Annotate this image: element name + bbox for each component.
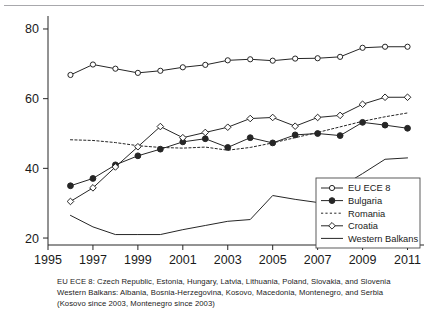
data-point-marker [158, 68, 163, 73]
x-tick-label: 2001 [169, 253, 197, 267]
data-point-marker [293, 56, 298, 61]
data-point-marker [224, 124, 231, 131]
series-eu-ece-8 [68, 44, 410, 77]
data-point-marker [135, 70, 140, 75]
series-romania [70, 113, 407, 150]
x-tick-label: 1999 [124, 253, 152, 267]
x-tick-label: 2009 [349, 253, 377, 267]
data-point-marker [68, 183, 74, 189]
data-point-marker [337, 133, 343, 139]
y-axis-tick-labels: 20406080 [25, 22, 39, 245]
data-point-marker [225, 58, 230, 63]
data-point-marker [404, 94, 411, 101]
data-point-marker [202, 129, 209, 136]
data-point-marker [329, 198, 335, 204]
data-point-marker [382, 94, 389, 101]
line-chart-plot: 20406080 1995199719992001200320052007200… [0, 0, 427, 317]
legend-item-label: Croatia [348, 221, 379, 231]
data-point-marker [292, 123, 299, 130]
data-point-marker [247, 135, 253, 141]
y-tick-label: 80 [25, 22, 39, 36]
data-point-marker [329, 185, 334, 190]
data-point-marker [405, 44, 410, 49]
data-point-marker [315, 56, 320, 61]
data-point-marker [359, 101, 366, 108]
data-point-marker [269, 114, 276, 121]
data-point-marker [338, 54, 343, 59]
chart-legend: EU ECE 8BulgariaRomaniaCroatiaWestern Ba… [316, 178, 420, 248]
x-tick-label: 1997 [79, 253, 107, 267]
data-point-marker [337, 112, 344, 119]
data-point-marker [180, 65, 185, 70]
data-point-marker [247, 115, 254, 122]
data-point-marker [405, 125, 411, 131]
data-point-marker [90, 62, 95, 67]
y-tick-label: 60 [25, 92, 39, 106]
chart-figure: 20406080 1995199719992001200320052007200… [0, 0, 427, 317]
data-point-marker [113, 66, 118, 71]
y-tick-label: 40 [25, 162, 39, 176]
data-point-marker [314, 114, 321, 121]
footnote-line-2: Western Balkans: Albania, Bosnia-Herzego… [57, 288, 427, 299]
data-point-marker [382, 44, 387, 49]
footnote-line-1: EU ECE 8: Czech Republic, Estonia, Hunga… [57, 277, 427, 288]
data-point-marker [67, 198, 74, 205]
data-point-marker [382, 122, 388, 128]
data-point-marker [270, 58, 275, 63]
series-line [70, 113, 407, 150]
data-point-marker [90, 176, 96, 182]
x-tick-label: 2005 [259, 253, 287, 267]
series-line [70, 47, 407, 75]
chart-footnote: EU ECE 8: Czech Republic, Estonia, Hunga… [57, 277, 427, 310]
legend-item-label: EU ECE 8 [348, 183, 390, 193]
legend-item-label: Romania [348, 209, 386, 219]
x-axis-tick-labels: 199519971999200120032005200720092011 [34, 253, 421, 267]
data-point-marker [360, 119, 366, 125]
x-tick-label: 2003 [214, 253, 242, 267]
data-point-marker [360, 45, 365, 50]
data-point-marker [203, 62, 208, 67]
data-point-marker [248, 57, 253, 62]
data-point-marker [68, 72, 73, 77]
x-tick-label: 2011 [394, 253, 421, 267]
x-tick-label: 1995 [34, 253, 62, 267]
legend-item-label: Bulgaria [348, 196, 383, 206]
x-tick-label: 2007 [304, 253, 332, 267]
footnote-line-3: (Kosovo since 2003, Montenegro since 200… [57, 299, 427, 310]
legend-item-label: Western Balkans [348, 234, 418, 244]
data-point-marker [202, 136, 208, 142]
series-line [70, 122, 407, 185]
y-tick-label: 20 [25, 232, 39, 246]
data-point-marker [135, 153, 141, 159]
